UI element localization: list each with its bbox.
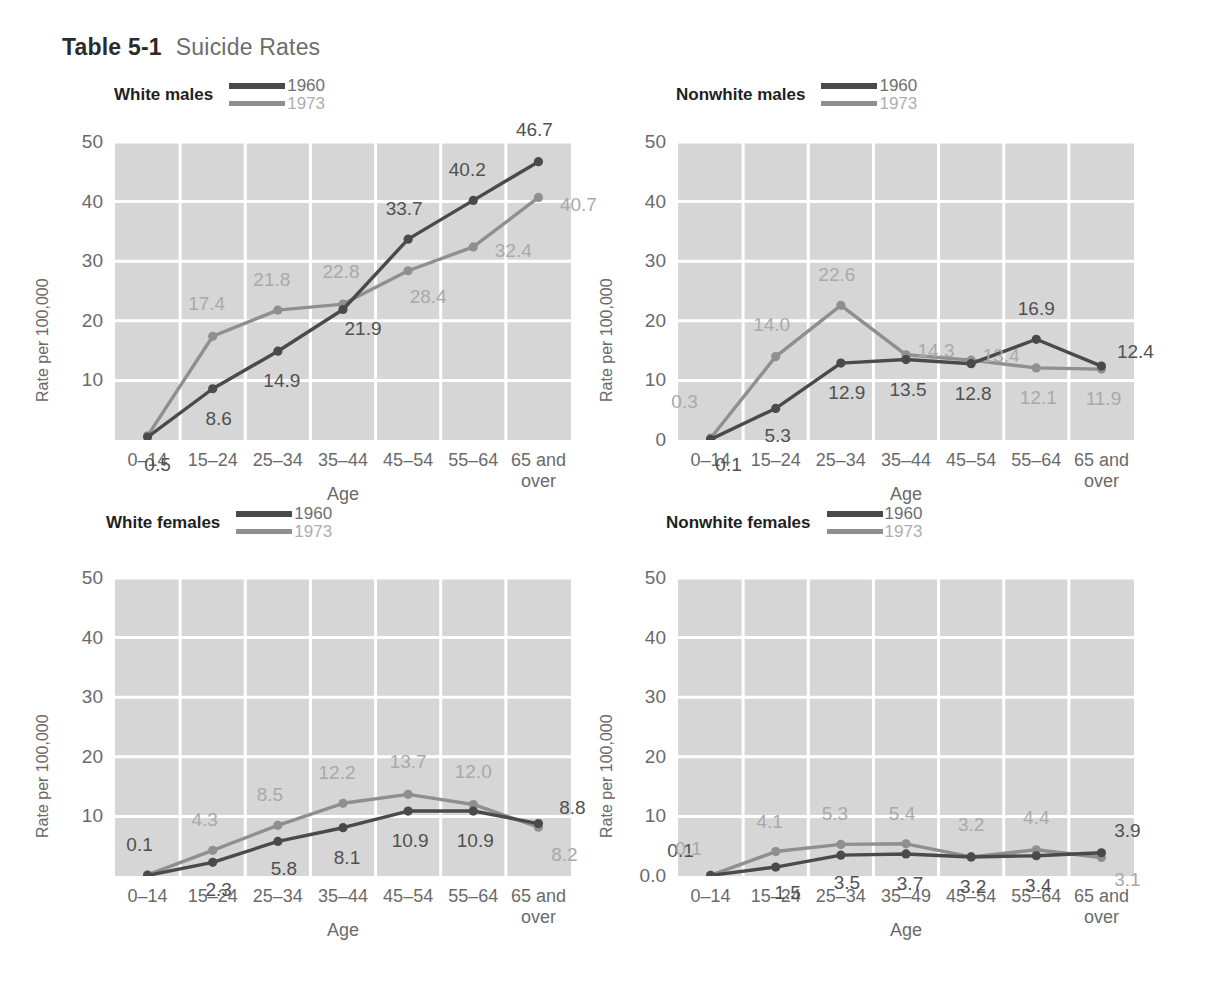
- data-label: 28.4: [410, 286, 447, 308]
- plot-area: 10203040500–1415–2425–3435–4445–5455–646…: [115, 578, 571, 876]
- data-point: [967, 852, 976, 861]
- x-axis-label: Age: [890, 484, 922, 505]
- data-point: [1032, 851, 1041, 860]
- data-label: 3.9: [1114, 820, 1140, 842]
- x-axis-tick: 65 and over: [1046, 450, 1156, 491]
- y-axis-tick: 30: [43, 686, 103, 708]
- plot-area: 10203040500–1415–2425–3435–4445–5455–646…: [115, 142, 571, 440]
- legend-line-1973-icon: [229, 101, 285, 106]
- plot-canvas: [115, 578, 571, 876]
- plot-canvas: [678, 578, 1134, 876]
- data-label: 8.2: [551, 844, 577, 866]
- x-axis-label: Age: [327, 920, 359, 941]
- legend-label-1960: 1960: [294, 505, 332, 522]
- x-axis-tick: 65 and over: [483, 886, 593, 927]
- figure-caption: Table 5-1Suicide Rates: [62, 34, 320, 61]
- legend-line-1973-icon: [821, 101, 877, 106]
- panel-header: White females 1960 1973: [106, 506, 332, 539]
- data-point: [901, 355, 910, 364]
- data-point: [901, 849, 910, 858]
- data-label: 22.6: [818, 264, 855, 286]
- data-label: 0.3: [671, 391, 697, 413]
- data-point: [338, 823, 347, 832]
- data-point: [208, 858, 217, 867]
- data-label: 3.2: [958, 814, 984, 836]
- y-axis-tick: 50: [606, 567, 666, 589]
- data-label: 3.2: [960, 876, 986, 898]
- data-label: 8.5: [257, 784, 283, 806]
- y-axis-tick: 50: [43, 131, 103, 153]
- y-axis-tick: 10: [606, 805, 666, 827]
- data-label: 40.7: [560, 194, 597, 216]
- plot-canvas: [115, 142, 571, 440]
- data-point: [469, 242, 478, 251]
- plot-background: [678, 578, 1134, 876]
- panel-title: White males: [114, 85, 213, 105]
- data-point: [273, 347, 282, 356]
- y-axis-tick: 10: [606, 369, 666, 391]
- data-point: [338, 799, 347, 808]
- x-axis-tick: 65 and over: [1046, 886, 1156, 927]
- data-label: 3.7: [897, 873, 923, 895]
- data-label: 8.8: [559, 797, 585, 819]
- legend-label-1973: 1973: [879, 95, 917, 112]
- data-point: [273, 305, 282, 314]
- data-label: 0.1: [675, 838, 701, 860]
- data-point: [771, 404, 780, 413]
- legend-label-1960: 1960: [879, 77, 917, 94]
- data-point: [469, 806, 478, 815]
- data-point: [1032, 335, 1041, 344]
- data-point: [208, 332, 217, 341]
- data-label: 10.9: [457, 830, 494, 852]
- y-axis-tick: 40: [606, 627, 666, 649]
- legend-label-1973: 1973: [287, 95, 325, 112]
- data-label: 32.4: [495, 240, 532, 262]
- data-point: [836, 851, 845, 860]
- y-axis-tick: 20: [606, 746, 666, 768]
- data-label: 0.1: [715, 454, 741, 476]
- data-label: 0.5: [144, 454, 170, 476]
- data-label: 12.2: [319, 762, 356, 784]
- data-point: [534, 819, 543, 828]
- data-label: 14.0: [753, 314, 790, 336]
- data-label: 40.2: [449, 159, 486, 181]
- legend: 1960 1973: [236, 506, 332, 539]
- data-label: 5.3: [822, 803, 848, 825]
- legend-line-1960-icon: [229, 83, 285, 89]
- y-axis-tick: 10: [43, 805, 103, 827]
- data-point: [534, 193, 543, 202]
- legend-line-1960-icon: [236, 511, 292, 517]
- y-axis-tick: 40: [43, 627, 103, 649]
- panel-title: Nonwhite females: [666, 513, 811, 533]
- data-label: 13.4: [983, 345, 1020, 367]
- plot-area: 0.010203040500–1415–2425–3435–4945–5455–…: [678, 578, 1134, 876]
- panel-header: White males 1960 1973: [114, 78, 325, 111]
- data-label: 46.7: [516, 119, 553, 141]
- data-label: 12.1: [1020, 387, 1057, 409]
- data-point: [469, 196, 478, 205]
- data-point: [836, 359, 845, 368]
- plot-area: 010203040500–1415–2425–3435–4445–5455–64…: [678, 142, 1134, 440]
- data-point: [1097, 361, 1106, 370]
- data-label: 0.1: [126, 834, 152, 856]
- data-point: [967, 359, 976, 368]
- data-point: [404, 235, 413, 244]
- data-label: 12.8: [955, 383, 992, 405]
- panel-title: White females: [106, 513, 220, 533]
- data-label: 13.5: [890, 379, 927, 401]
- data-point: [534, 157, 543, 166]
- data-point: [338, 305, 347, 314]
- legend-row-1973: 1973: [229, 96, 325, 111]
- data-point: [771, 847, 780, 856]
- legend-line-1973-icon: [827, 529, 883, 534]
- legend: 1960 1973: [827, 506, 923, 539]
- y-axis-tick: 30: [606, 250, 666, 272]
- legend-row-1960: 1960: [229, 78, 325, 93]
- data-label: 2.3: [205, 879, 231, 901]
- x-axis-tick: 65 and over: [483, 450, 593, 491]
- legend-line-1960-icon: [827, 511, 883, 517]
- data-label: 33.7: [386, 198, 423, 220]
- data-point: [901, 839, 910, 848]
- y-axis-tick: 40: [606, 191, 666, 213]
- legend-row-1973: 1973: [236, 524, 332, 539]
